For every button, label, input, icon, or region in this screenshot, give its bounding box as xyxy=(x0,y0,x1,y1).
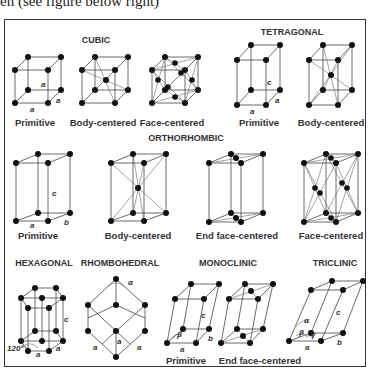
label-orthorhombic-face-centered: Face-centered xyxy=(299,230,364,241)
svg-text:a: a xyxy=(250,107,255,116)
orthorhombic-body-centered-cell xyxy=(108,151,169,224)
monoclinic-primitive-cell: β c b a xyxy=(164,281,222,354)
svg-text:a: a xyxy=(305,343,310,352)
label-cubic-body-centered: Body-centered xyxy=(70,117,137,128)
label-orthorhombic-primitive: Primitive xyxy=(18,230,58,241)
cubic-primitive-cell: a a a xyxy=(12,54,64,114)
cubic-face-centered-cell xyxy=(149,54,201,106)
svg-text:a: a xyxy=(30,105,35,114)
svg-text:a: a xyxy=(56,344,61,353)
svg-text:c: c xyxy=(336,308,341,317)
hexagonal-cell: c a a 120° xyxy=(7,285,69,359)
orthorhombic-end-face-centered-cell xyxy=(206,151,266,225)
rhombohedral-cell: α a a a xyxy=(85,276,148,360)
svg-text:β: β xyxy=(176,330,182,339)
monoclinic-end-face-centered-cell xyxy=(218,281,276,346)
label-orthorhombic-end-face-centered: End face-centered xyxy=(196,230,279,241)
title-hexagonal: HEXAGONAL xyxy=(15,258,73,268)
title-rhombohedral: RHOMBOHEDRAL xyxy=(81,258,160,268)
svg-text:a: a xyxy=(56,96,61,105)
label-tetragonal-body-centered: Body-centered xyxy=(298,117,365,128)
label-monoclinic-primitive: Primitive xyxy=(166,355,206,366)
svg-text:b: b xyxy=(64,218,69,227)
bravais-lattice-diagram: CUBIC a a a Primitive Body-centered xyxy=(0,0,371,371)
svg-text:a: a xyxy=(117,337,122,346)
label-cubic-primitive: Primitive xyxy=(15,117,55,128)
svg-text:a: a xyxy=(93,343,98,352)
svg-text:α: α xyxy=(304,316,310,325)
triclinic-cell: α β γ c b a xyxy=(286,278,366,352)
title-orthorhombic: ORTHORHOMBIC xyxy=(148,133,224,143)
svg-text:a: a xyxy=(36,350,41,359)
svg-text:c: c xyxy=(64,315,69,324)
label-monoclinic-end-face-centered: End face-centered xyxy=(219,355,302,366)
tetragonal-body-centered-cell xyxy=(306,42,355,108)
svg-text:a: a xyxy=(180,345,185,354)
svg-text:b: b xyxy=(337,338,342,347)
svg-text:c: c xyxy=(267,78,272,87)
svg-text:γ: γ xyxy=(311,330,316,339)
label-orthorhombic-body-centered: Body-centered xyxy=(105,230,172,241)
svg-text:120°: 120° xyxy=(7,344,24,353)
svg-text:a: a xyxy=(275,96,280,105)
svg-text:β: β xyxy=(298,328,304,337)
orthorhombic-primitive-cell: c b a xyxy=(13,151,73,230)
svg-text:a: a xyxy=(30,221,35,230)
svg-text:c: c xyxy=(201,311,206,320)
title-monoclinic: MONOCLINIC xyxy=(199,258,257,268)
title-triclinic: TRICLINIC xyxy=(313,258,358,268)
cubic-body-centered-cell xyxy=(79,54,131,106)
svg-text:a: a xyxy=(41,80,46,89)
svg-text:a: a xyxy=(137,343,142,352)
orthorhombic-face-centered-cell xyxy=(301,151,361,225)
svg-text:α: α xyxy=(128,278,134,287)
tetragonal-primitive-cell: c a a xyxy=(234,42,283,116)
svg-text:b: b xyxy=(208,334,213,343)
title-cubic: CUBIC xyxy=(82,35,111,45)
svg-text:c: c xyxy=(52,189,57,198)
label-cubic-face-centered: Face-centered xyxy=(140,117,205,128)
label-tetragonal-primitive: Primitive xyxy=(239,117,279,128)
title-tetragonal: TETRAGONAL xyxy=(261,27,324,37)
